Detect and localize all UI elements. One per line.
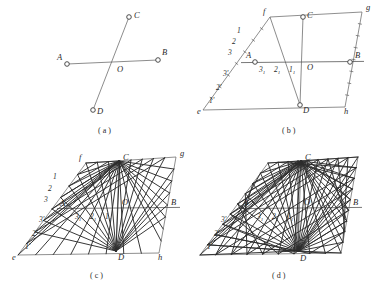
figure-root: ABCDO( a )fghe1233'2'1'312111ABCDO( b )f… — [0, 0, 374, 287]
point-label-D: D — [299, 253, 307, 263]
chord-line — [260, 162, 278, 173]
chord-line — [253, 162, 288, 184]
point-label-A: A — [242, 197, 249, 207]
division-label-3prime: 3' — [220, 215, 227, 224]
division-label-2sub1: 21 — [272, 212, 278, 222]
point-label-O: O — [304, 197, 310, 207]
division-label-1sub1: 11 — [287, 212, 293, 222]
division-label-1prime: 1' — [207, 242, 213, 251]
ray-from-C — [215, 161, 301, 235]
division-label-2prime: 2' — [214, 229, 220, 238]
point-label-B: B — [353, 197, 358, 207]
point-label-C: C — [305, 152, 311, 162]
panel-d: 3'2'1'312111ABCDO( d ) — [0, 0, 374, 287]
caption-d: ( d ) — [272, 271, 286, 280]
